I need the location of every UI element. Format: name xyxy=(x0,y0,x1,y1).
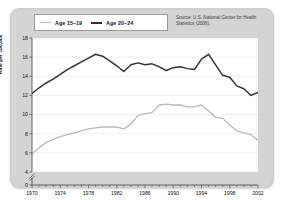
x-tick-label: 1978 xyxy=(83,190,95,196)
plot-svg xyxy=(32,38,258,172)
x-tick-label: 1990 xyxy=(167,190,179,196)
plot-area xyxy=(32,38,258,172)
legend-label: Age 20–24 xyxy=(106,20,133,26)
legend-swatch-line-icon xyxy=(40,22,51,23)
legend-swatch-line-icon xyxy=(91,22,102,24)
legend-entry-age-20-24: Age 20–24 xyxy=(91,20,133,26)
series-lines xyxy=(32,54,258,154)
x-tick-label: 1982 xyxy=(111,190,123,196)
x-axis-ticks xyxy=(32,176,262,188)
x-tick-label: 1974 xyxy=(54,190,66,196)
x-tick-label: 1998 xyxy=(224,190,236,196)
source-note: Source: U.S. National Center for Health … xyxy=(176,15,276,28)
x-tick-label: 2002 xyxy=(252,190,264,196)
legend-entry-age-15-19: Age 15–19 xyxy=(40,20,82,26)
gridlines xyxy=(32,38,258,172)
y-axis-ticks xyxy=(16,38,29,178)
series-line xyxy=(32,54,258,95)
x-tick-label: 1970 xyxy=(26,190,38,196)
x-tick-label: 1994 xyxy=(196,190,208,196)
chart-figure: Age 15–19 Age 20–24 Source: U.S. Nationa… xyxy=(0,0,284,200)
y-axis-label: Rate per 100,000 xyxy=(0,35,3,74)
legend-label: Age 15–19 xyxy=(55,20,82,26)
x-tick-label: 1986 xyxy=(139,190,151,196)
chart-legend: Age 15–19 Age 20–24 xyxy=(34,14,168,31)
series-line xyxy=(32,104,258,154)
